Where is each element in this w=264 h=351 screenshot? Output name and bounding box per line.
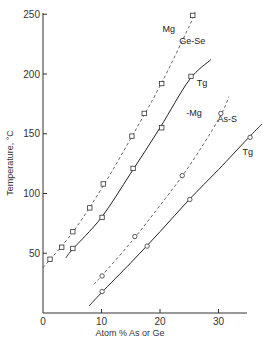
series-line — [89, 124, 262, 306]
data-point-square — [100, 215, 104, 219]
data-point-square — [160, 81, 164, 85]
data-point-square — [60, 245, 64, 249]
y-tick-label: 200 — [23, 69, 40, 80]
x-axis: 0102030 — [40, 309, 247, 327]
series-ge-se-mg — [43, 12, 195, 268]
x-tick-label: 0 — [40, 316, 46, 327]
data-point-square — [48, 257, 52, 261]
y-tick-label: 100 — [23, 188, 40, 199]
y-tick-label: 150 — [23, 128, 40, 139]
data-point-circle — [100, 289, 104, 293]
x-tick-label: 10 — [96, 316, 108, 327]
data-point-square — [71, 246, 75, 250]
series-line — [43, 12, 195, 268]
annotation-label: Tg — [242, 147, 253, 157]
data-point-square — [160, 126, 164, 130]
series-as-s-tg — [89, 124, 262, 306]
data-point-square — [142, 111, 146, 115]
annotation-label: Mg — [163, 24, 176, 34]
series-line — [66, 60, 211, 258]
annotation-label: Ge-Se — [179, 36, 205, 46]
annotation-label: Tg — [197, 78, 208, 88]
x-tick-label: 30 — [213, 316, 225, 327]
y-tick-label: 250 — [23, 9, 40, 20]
data-point-square — [71, 230, 75, 234]
x-tick-label: 20 — [154, 316, 166, 327]
chart-plot: 50100150200250 0102030 Temperature, °C A… — [0, 0, 264, 351]
annotation-label: -Mg — [186, 108, 202, 118]
data-point-circle — [133, 234, 137, 238]
data-point-circle — [180, 173, 184, 177]
data-point-circle — [188, 197, 192, 201]
data-point-circle — [248, 135, 252, 139]
data-point-square — [191, 13, 195, 17]
series-layer — [43, 12, 262, 306]
data-point-square — [88, 206, 92, 210]
data-point-square — [131, 166, 135, 170]
annotations: MgGe-SeTg-MgAs-STg — [163, 24, 253, 157]
data-point-square — [130, 134, 134, 138]
annotation-label: As-S — [218, 114, 238, 124]
series-ge-se-tg — [66, 60, 211, 258]
x-ticks: 0102030 — [40, 309, 224, 327]
y-axis-label: Temperature, °C — [5, 130, 15, 196]
data-point-square — [189, 74, 193, 78]
data-point-circle — [100, 274, 104, 278]
x-axis-label: Atom % As or Ge — [95, 328, 164, 338]
data-point-square — [101, 182, 105, 186]
data-point-circle — [145, 244, 149, 248]
y-tick-label: 50 — [29, 248, 41, 259]
